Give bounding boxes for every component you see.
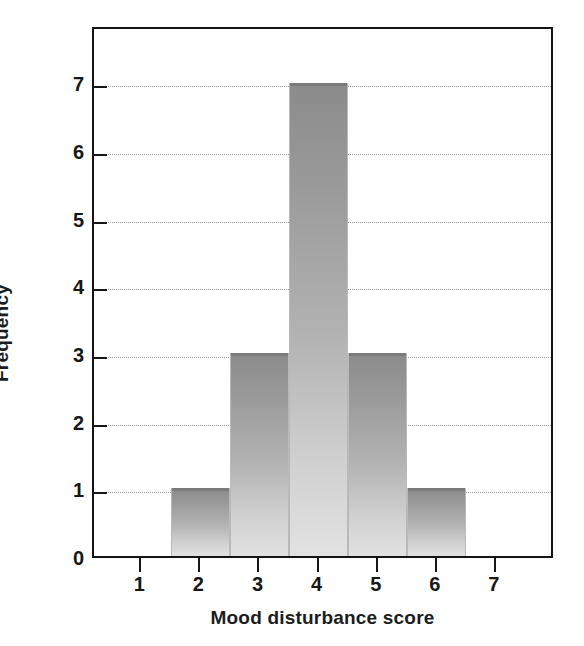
y-axis-title-text: Frequency <box>0 284 13 382</box>
x-tick-label-3: 3 <box>242 574 272 594</box>
y-tick-label-4: 4 <box>58 277 84 297</box>
y-tick-label-5: 5 <box>58 210 84 230</box>
y-axis-tick-labels: 01234567 <box>40 27 84 558</box>
x-tick-7 <box>494 558 496 572</box>
x-tick-label-7: 7 <box>479 574 509 594</box>
y-tick-label-1: 1 <box>58 480 84 500</box>
y-tick-7 <box>94 86 107 88</box>
bar-5 <box>348 353 407 556</box>
bar-2 <box>171 488 230 556</box>
x-tick-label-6: 6 <box>420 574 450 594</box>
x-tick-3 <box>257 558 259 572</box>
x-tick-label-5: 5 <box>361 574 391 594</box>
y-tick-label-3: 3 <box>58 345 84 365</box>
y-tick-5 <box>94 222 107 224</box>
y-tick-2 <box>94 425 107 427</box>
histogram-figure: Frequency 01234567 1234567 Mood disturba… <box>0 0 584 646</box>
x-tick-label-1: 1 <box>124 574 154 594</box>
y-tick-6 <box>94 154 107 156</box>
x-tick-2 <box>198 558 200 572</box>
x-tick-1 <box>139 558 141 572</box>
y-tick-label-0: 0 <box>58 548 84 568</box>
y-tick-label-2: 2 <box>58 413 84 433</box>
plot-area <box>92 27 553 558</box>
x-tick-4 <box>317 558 319 572</box>
x-tick-5 <box>376 558 378 572</box>
y-tick-1 <box>94 492 107 494</box>
bar-4 <box>289 83 348 557</box>
x-tick-6 <box>435 558 437 572</box>
y-tick-4 <box>94 289 107 291</box>
y-tick-3 <box>94 357 107 359</box>
y-tick-label-6: 6 <box>58 142 84 162</box>
y-tick-label-7: 7 <box>58 74 84 94</box>
x-axis-title: Mood disturbance score <box>92 607 553 629</box>
x-axis-tick-labels: 1234567 <box>92 574 553 602</box>
x-axis-ticks <box>92 558 553 574</box>
bar-3 <box>230 353 289 556</box>
x-tick-label-4: 4 <box>302 574 332 594</box>
bar-6 <box>407 488 466 556</box>
x-tick-label-2: 2 <box>183 574 213 594</box>
